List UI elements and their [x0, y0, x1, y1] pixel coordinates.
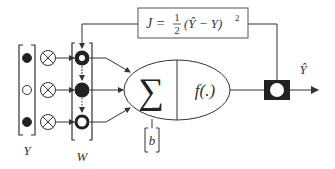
- bias-label: b: [149, 133, 156, 148]
- weight-node-2: [75, 83, 90, 98]
- multiplier-icon: [41, 83, 56, 98]
- multiplier-icon: [41, 115, 56, 130]
- output-node: [264, 80, 290, 100]
- weight-node-1: [75, 51, 90, 66]
- weight-node-3: [75, 115, 90, 130]
- output-label: Ŷ: [299, 62, 308, 77]
- cost-frac-den: 2: [174, 24, 180, 36]
- input-node-1: [23, 54, 32, 63]
- input-node-3: [23, 118, 32, 127]
- cost-lhs: J =: [146, 16, 165, 31]
- input-vector-label: Y: [23, 143, 32, 158]
- multiplier-to-weight-arrows: [56, 58, 75, 122]
- cost-exponent: 2: [235, 13, 240, 23]
- error-feedback-line: [248, 24, 277, 80]
- activation-function-label: f(.): [195, 81, 216, 100]
- input-node-2: [23, 86, 32, 95]
- cost-rhs: (Ŷ − Y): [184, 16, 222, 31]
- summation-symbol: ∑: [138, 71, 164, 111]
- cost-frac-num: 1: [174, 11, 180, 23]
- weight-vector-label: W: [77, 149, 89, 164]
- neuron-diagram: ∑ f(.) b Ŷ J = 1 2 (Ŷ − Y) 2 Y W: [0, 0, 335, 169]
- multiplier-icon: [41, 51, 56, 66]
